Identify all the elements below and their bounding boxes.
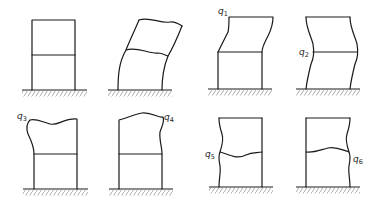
- mode-label-q2: q2: [299, 47, 309, 59]
- frame-mode-q5: q5: [205, 118, 273, 194]
- frame-mode-q1: q1: [208, 6, 273, 96]
- right-column: [162, 26, 182, 90]
- frame-sway: [108, 19, 182, 97]
- frame-mode-q3: q3: [17, 111, 88, 196]
- ground-support: [22, 90, 87, 97]
- ground-support: [23, 189, 88, 196]
- frame-undeformed: [22, 20, 87, 97]
- ground-support: [296, 187, 360, 194]
- ground-support: [109, 189, 173, 196]
- frame-outline: [218, 17, 273, 89]
- frame-mode-q2: q2: [296, 17, 360, 96]
- mode-label-q4: q4: [164, 112, 174, 124]
- ground-support: [209, 187, 273, 194]
- mode-label-q3: q3: [17, 111, 27, 123]
- frame-deformation-diagram: q1 q2 q3 q: [0, 0, 384, 204]
- ground-support: [208, 89, 272, 96]
- roof-beam: [139, 19, 182, 26]
- mode-label-q6: q6: [353, 154, 363, 166]
- right-column: [350, 17, 358, 89]
- ground-support: [296, 89, 360, 96]
- left-column: [118, 20, 139, 90]
- mode-label-q5: q5: [205, 149, 215, 161]
- floor-beam: [220, 152, 262, 157]
- right-column: [346, 118, 350, 187]
- mode-label-q1: q1: [218, 6, 228, 18]
- ground-support: [108, 90, 172, 97]
- floor-beam: [306, 147, 349, 152]
- frame-outline: [119, 113, 164, 189]
- floor-beam: [126, 49, 168, 56]
- frame-mode-q6: q6: [296, 118, 363, 194]
- frame-mode-q4: q4: [109, 112, 174, 196]
